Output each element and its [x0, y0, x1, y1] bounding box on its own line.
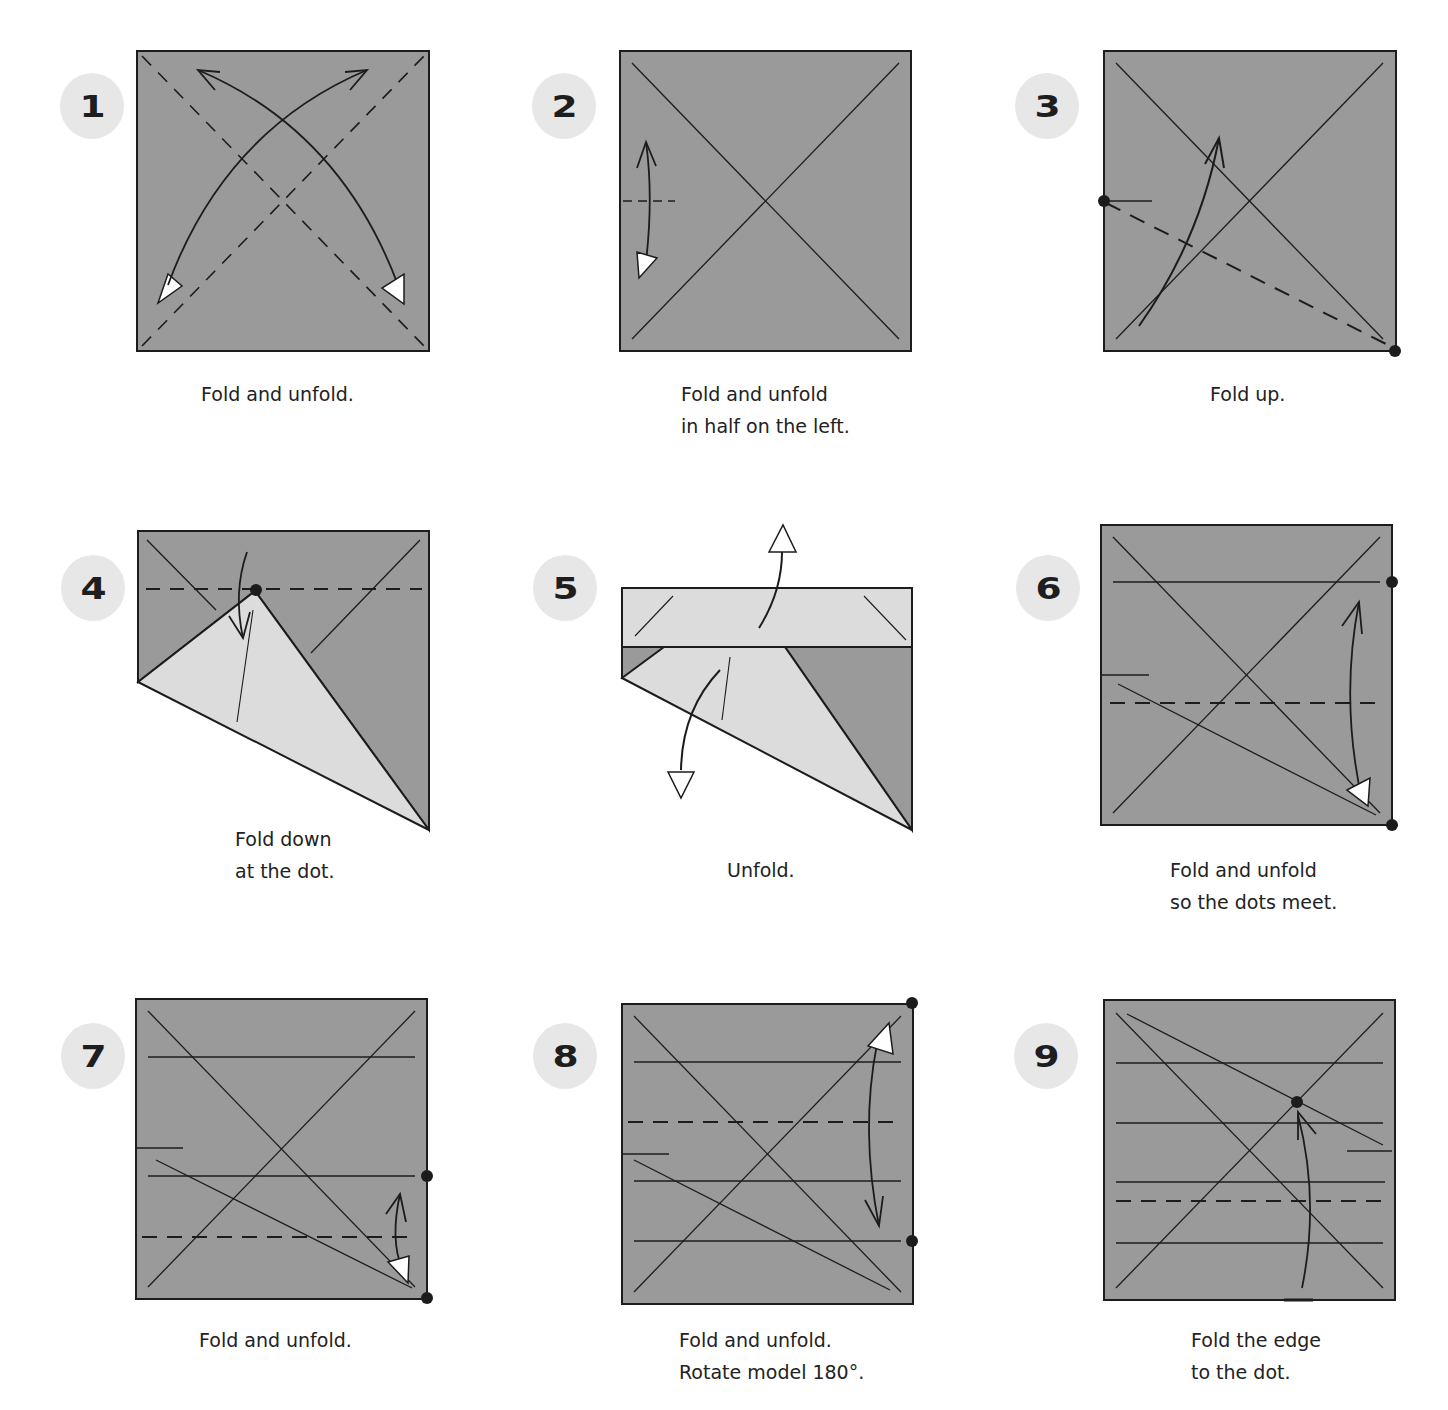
- caption-line: Fold the edge: [1191, 1324, 1321, 1356]
- caption-line: to the dot.: [1191, 1356, 1321, 1388]
- reference-dot: [1291, 1096, 1303, 1108]
- step-9-diagram: [0, 0, 1448, 1410]
